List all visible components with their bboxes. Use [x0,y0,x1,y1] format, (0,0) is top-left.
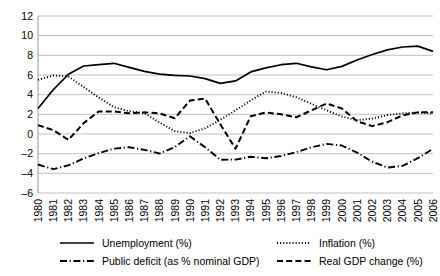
y-axis-tick-label: –6 [21,187,33,199]
y-axis-tick-label: 0 [27,128,33,140]
x-axis-tick-label: 2006 [427,199,439,223]
y-axis-tick-label: 4 [27,88,33,100]
y-axis-tick-label: 6 [27,69,33,81]
x-axis-tick-label: 1995 [260,199,272,223]
x-axis-tick-label: 2001 [351,199,363,223]
series-line-1 [38,75,433,133]
y-axis-tick-label: –2 [21,147,33,159]
x-axis-tick-label: 1997 [290,199,302,223]
x-axis-tick-label: 1983 [77,199,89,223]
x-axis-tick-label: 1984 [93,199,105,223]
y-axis-tick-labels: 121086420–2–4–6 [21,10,33,199]
y-axis-tick-label: –4 [21,167,33,179]
x-axis-tick-label: 2000 [336,199,348,223]
x-axis-tick-label: 1988 [153,199,165,223]
legend-label: Public deficit (as % nominal GDP) [102,255,260,267]
x-axis-tick-label: 1994 [244,199,256,223]
x-axis-tick-label: 1996 [275,199,287,223]
x-axis-tick-label: 2003 [381,199,393,223]
x-axis-tick-label: 2005 [412,199,424,223]
x-axis-tick-label: 1998 [305,199,317,223]
chart-legend: Unemployment (%)Inflation (%)Public defi… [60,237,423,267]
line-chart: 121086420–2–4–6 198019811982198319841985… [0,0,440,276]
x-axis-tick-label: 1992 [214,199,226,223]
x-axis-tick-label: 1987 [138,199,150,223]
gridlines [38,16,433,193]
legend-label: Inflation (%) [319,237,375,249]
x-axis-tick-label: 1990 [184,199,196,223]
y-axis-tick-label: 8 [27,49,33,61]
x-axis-tick-label: 1985 [108,199,120,223]
y-axis-tick-label: 10 [21,29,33,41]
legend-label: Unemployment (%) [102,237,192,249]
x-axis-tick-label: 2004 [396,199,408,223]
x-axis-tick-label: 1981 [47,199,59,223]
y-axis-tick-label: 2 [27,108,33,120]
data-series-group [38,46,433,169]
chart-container: 121086420–2–4–6 198019811982198319841985… [0,0,440,276]
series-line-3 [38,99,433,149]
x-axis-tick-label: 1999 [320,199,332,223]
x-axis-tick-label: 1980 [32,199,44,223]
x-axis-tick-label: 1982 [62,199,74,223]
x-axis-tick-label: 1986 [123,199,135,223]
x-axis-tick-label: 1991 [199,199,211,223]
y-axis-tick-label: 12 [21,10,33,22]
x-axis-tick-label: 1989 [169,199,181,223]
x-axis-tick-label: 1993 [229,199,241,223]
legend-label: Real GDP change (%) [319,255,423,267]
x-axis-tick-label: 2002 [366,199,378,223]
x-axis-tick-labels: 1980198119821983198419851986198719881989… [32,199,439,223]
series-line-2 [38,136,433,169]
